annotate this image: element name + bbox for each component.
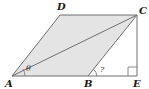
angle-arc-b <box>93 69 97 76</box>
point-label-d: D <box>56 1 66 12</box>
geometry-diagram: θ ? A B E D C <box>0 0 149 89</box>
point-label-c: C <box>139 5 147 16</box>
point-label-e: E <box>132 78 141 89</box>
right-angle-marker <box>128 67 137 76</box>
angle-label-a: θ <box>26 64 31 73</box>
angle-label-b: ? <box>100 65 105 74</box>
point-label-b: B <box>83 78 92 89</box>
point-label-a: A <box>4 78 13 89</box>
